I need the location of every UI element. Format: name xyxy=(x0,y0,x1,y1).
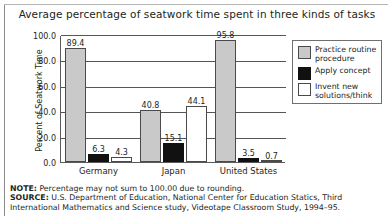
y-axis-tick-label: 40.0 xyxy=(22,108,56,117)
legend-swatch-icon xyxy=(298,46,311,59)
figure: Average percentage of seatwork time spen… xyxy=(0,0,392,220)
source-text: U.S. Department of Education, National C… xyxy=(10,193,342,211)
bar-value-label: 89.4 xyxy=(59,39,93,48)
bar-value-label: 95.8 xyxy=(209,31,243,40)
chart-title: Average percentage of seatwork time spen… xyxy=(10,8,384,20)
plot-top-gridline xyxy=(61,35,286,36)
y-axis-title: Percent of Seatwork Time xyxy=(35,36,44,166)
legend-label: Apply concept xyxy=(315,66,381,75)
plot-area: 89.46.34.3Germany40.815.144.1Japan95.83.… xyxy=(60,36,285,163)
legend-item: Practice routine procedure xyxy=(298,45,381,63)
gridline xyxy=(61,112,286,113)
footnotes: NOTE: Percentage may not sum to 100.00 d… xyxy=(10,184,386,212)
y-axis-ticks: Percent of Seatwork Time 100.080.060.040… xyxy=(18,36,56,163)
bar-value-label: 40.8 xyxy=(134,101,168,110)
legend-swatch-icon xyxy=(298,67,311,80)
y-axis-tick-label: 80.0 xyxy=(22,57,56,66)
legend-swatch-icon xyxy=(298,83,311,96)
y-axis-tick-label: 20.0 xyxy=(22,133,56,142)
source-line: SOURCE: U.S. Department of Education, Na… xyxy=(10,193,386,212)
gridline xyxy=(61,61,286,62)
chart-legend: Practice routine procedureApply conceptI… xyxy=(292,40,382,104)
legend-label: Practice routine procedure xyxy=(315,45,381,63)
y-axis-tick-label: 100.0 xyxy=(22,32,56,41)
note-line: NOTE: Percentage may not sum to 100.00 d… xyxy=(10,184,386,193)
bar xyxy=(186,106,207,162)
legend-item: Apply concept xyxy=(298,66,381,80)
note-text: Percentage may not sum to 100.00 due to … xyxy=(37,184,244,193)
bar-value-label: 44.1 xyxy=(180,97,214,106)
y-axis-tick-label: 0.0 xyxy=(22,159,56,168)
y-axis-tick-label: 60.0 xyxy=(22,82,56,91)
source-label: SOURCE: xyxy=(10,193,49,202)
figure-top-border xyxy=(4,4,388,5)
gridline xyxy=(61,87,286,88)
legend-item: Invent new solutions/think xyxy=(298,82,381,100)
legend-label: Invent new solutions/think xyxy=(315,82,381,100)
bar xyxy=(215,40,236,162)
bar xyxy=(111,157,132,162)
bar-value-label: 4.3 xyxy=(105,148,139,157)
note-label: NOTE: xyxy=(10,184,37,193)
bar-value-label: 0.7 xyxy=(255,152,289,161)
x-axis-category-label: United States xyxy=(204,166,294,176)
figure-left-border xyxy=(4,4,5,216)
bar xyxy=(163,143,184,162)
